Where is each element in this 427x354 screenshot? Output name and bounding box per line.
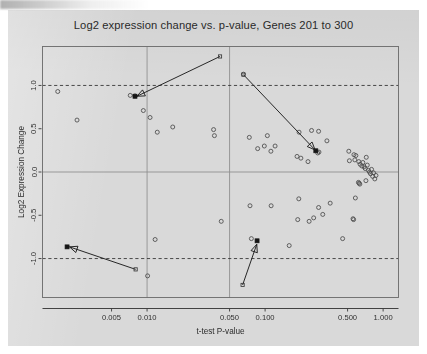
data-point [321,212,325,216]
data-point [146,274,150,278]
data-point [317,205,321,209]
data-point [269,204,273,208]
data-point [307,219,311,223]
arrow-upper-right [243,75,315,150]
data-point [306,160,310,164]
data-point [295,154,299,158]
data-point [212,128,216,132]
x-tick-label: 0.050 [220,313,239,322]
y-axis-title: Log2 Expression Change [17,126,26,218]
data-point [347,159,351,163]
y-tick-label: -1.0 [30,252,39,265]
arrow-upper-left-arrowhead [137,90,145,96]
data-point [247,135,251,139]
data-point [273,144,277,148]
data-point [312,216,316,220]
data-point [364,179,368,183]
data-point [297,197,301,201]
data-point [353,196,357,200]
figure-screenshot: Log2 expression change vs. p-value, Gene… [0,0,427,354]
arrow-lower-left [69,247,135,270]
arrow-lower-center [243,244,257,285]
x-tick-label: 0.010 [138,313,157,322]
data-point [364,155,368,159]
scatter-plot: 0.0050.0100.0500.1000.5001.000t-test P-v… [0,0,427,354]
data-point [341,237,345,241]
data-point [353,158,357,162]
data-point [155,130,159,134]
data-point [328,201,332,205]
data-point [296,218,300,222]
data-point [310,128,314,132]
y-tick-label: 1.0 [30,80,39,91]
data-point [153,238,157,242]
data-point [269,149,273,153]
data-point [256,147,260,151]
data-point [325,139,329,143]
highlighted-data-point [65,245,69,249]
data-point [212,134,216,138]
data-point [219,219,223,223]
x-axis-title: t-test P-value [196,327,245,336]
data-point [262,144,266,148]
data-point [365,163,369,167]
data-point [299,156,303,160]
data-point [347,149,351,153]
y-tick-label: -0.5 [30,209,39,222]
data-point [171,125,175,129]
data-point [141,109,145,113]
data-point [287,244,291,248]
data-point [148,115,152,119]
x-tick-label: 0.100 [256,313,275,322]
data-point [248,204,252,208]
x-tick-label: 0.005 [102,313,121,322]
data-point [249,237,253,241]
data-point [265,134,269,138]
x-tick-label: 0.500 [338,313,357,322]
y-tick-label: 0.5 [30,123,39,134]
x-tick-label: 1.000 [374,313,393,322]
data-point [317,129,321,133]
data-point [75,118,79,122]
arrow-lower-left-arrowhead [69,246,77,252]
arrow-upper-left [137,56,220,96]
highlighted-data-point [255,239,259,243]
arrow-lower-center-arrowhead [251,244,257,252]
y-tick-label: 0.0 [30,167,39,178]
data-point [128,93,132,97]
data-point [56,90,60,94]
